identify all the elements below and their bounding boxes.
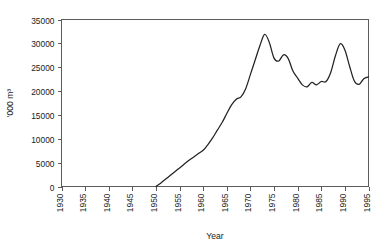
y-tick-label-35000: 35000 (31, 16, 55, 26)
y-tick-label-5000: 5000 (36, 159, 55, 169)
x-tick-label-1960: 1960 (196, 193, 206, 212)
line-chart: 05000100001500020000250003000035000 1930… (0, 0, 387, 250)
y-tick-label-10000: 10000 (31, 135, 55, 145)
x-tick-label-1935: 1935 (78, 193, 88, 212)
y-tick-label-0: 0 (50, 183, 55, 193)
x-tick-label-1980: 1980 (291, 193, 301, 212)
x-tick-label-1970: 1970 (243, 193, 253, 212)
x-tick-label-1950: 1950 (149, 193, 159, 212)
y-axis-ticks (58, 21, 62, 188)
y-tick-label-15000: 15000 (31, 111, 55, 121)
chart-canvas: 05000100001500020000250003000035000 1930… (0, 0, 387, 250)
x-tick-label-1940: 1940 (102, 193, 112, 212)
y-tick-label-20000: 20000 (31, 87, 55, 97)
x-axis-ticks (63, 187, 370, 191)
x-axis-tick-labels: 1930193519401945195019551960196519701975… (55, 193, 372, 212)
x-tick-label-1965: 1965 (220, 193, 230, 212)
x-axis-title: Year (206, 231, 224, 241)
data-series-group (156, 34, 369, 186)
y-tick-label-30000: 30000 (31, 39, 55, 49)
plot-frame (62, 20, 369, 187)
x-tick-label-1990: 1990 (338, 193, 348, 212)
x-tick-label-1975: 1975 (267, 193, 277, 212)
series-line-production (156, 34, 369, 186)
x-tick-label-1945: 1945 (125, 193, 135, 212)
y-tick-label-25000: 25000 (31, 63, 55, 73)
x-tick-label-1955: 1955 (173, 193, 183, 212)
x-tick-label-1985: 1985 (314, 193, 324, 212)
x-tick-label-1930: 1930 (55, 193, 65, 212)
y-axis-tick-labels: 05000100001500020000250003000035000 (31, 16, 55, 193)
x-tick-label-1995: 1995 (362, 193, 372, 212)
y-axis-title: '000 m³ (5, 89, 15, 118)
